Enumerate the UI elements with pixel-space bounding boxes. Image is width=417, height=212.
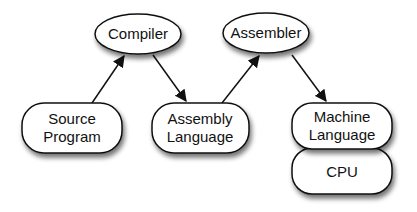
compilation-diagram: Compiler Assembler Source Program Assemb… [0, 0, 417, 212]
assembly-language-label-line2: Language [167, 128, 234, 145]
edge-compiler-to-assembly [153, 55, 186, 101]
cpu-label: CPU [326, 163, 358, 180]
machine-language-label-line2: Language [309, 126, 376, 143]
source-program-label-line1: Source [48, 110, 96, 127]
edge-assembly-to-assembler [222, 56, 259, 103]
source-program-label-line2: Program [43, 128, 101, 145]
edge-assembler-to-machine [292, 55, 326, 101]
assembly-language-label-line1: Assembly [167, 110, 233, 127]
edge-source-to-compiler [92, 56, 124, 103]
assembler-label: Assembler [231, 24, 302, 41]
machine-language-label-line1: Machine [314, 108, 371, 125]
compiler-label: Compiler [108, 25, 168, 42]
edges [92, 55, 326, 103]
